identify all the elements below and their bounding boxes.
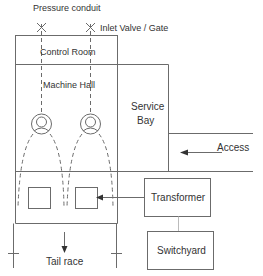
control-room-label: Control Room <box>40 47 96 57</box>
generator-box-1 <box>29 188 51 209</box>
turbine-inner-ring <box>86 117 96 127</box>
turbine-inner-ring <box>37 117 47 127</box>
turbine-unit-2 <box>81 114 101 134</box>
access-arrow-icon <box>180 150 188 156</box>
transformer-label: Transformer <box>151 192 206 203</box>
machine-hall-label: Machine Hall <box>43 80 95 90</box>
turbine-runner <box>34 128 49 131</box>
pressure-conduit-label: Pressure conduit <box>33 3 101 13</box>
draft-tube-1-right <box>50 134 64 207</box>
tail-race-label: Tail race <box>46 256 84 267</box>
draft-tube-2-left <box>67 134 82 207</box>
switchyard-label: Switchyard <box>157 245 206 256</box>
service-bay-label-line1: Service <box>131 101 165 112</box>
access-label: Access <box>217 142 249 153</box>
turbine-unit-1 <box>32 114 52 134</box>
powerhouse-diagram: Pressure conduit Inlet Valve / Gate Cont… <box>0 0 263 276</box>
generator-box-2 <box>76 188 98 209</box>
draft-tube-1-left <box>18 134 33 207</box>
turbine-runner <box>83 128 98 131</box>
inlet-valve-label: Inlet Valve / Gate <box>100 23 168 33</box>
tail-race-arrow-icon <box>62 246 68 253</box>
service-bay-label-line2: Bay <box>137 115 154 126</box>
